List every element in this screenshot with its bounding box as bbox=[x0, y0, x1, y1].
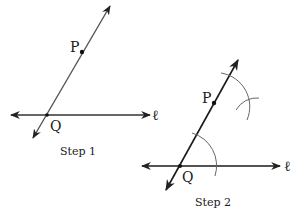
step2-arc-p-small bbox=[236, 98, 259, 110]
step2-point-p bbox=[212, 101, 216, 105]
step1-point-p bbox=[80, 50, 84, 54]
step-2-figure: P Q ℓ Step 2 bbox=[142, 60, 291, 209]
step2-arc-p-large bbox=[221, 73, 250, 120]
step1-label-p: P bbox=[70, 39, 79, 55]
step-1-figure: P Q ℓ Step 1 bbox=[11, 6, 159, 158]
step2-arc-q bbox=[192, 133, 217, 176]
construction-diagram: P Q ℓ Step 1 P Q ℓ Step 2 bbox=[0, 0, 299, 217]
step2-point-q bbox=[178, 164, 182, 168]
step1-transversal bbox=[33, 6, 110, 138]
step2-label-l: ℓ bbox=[284, 158, 291, 174]
step2-transversal bbox=[166, 60, 238, 190]
step1-caption: Step 1 bbox=[60, 145, 96, 158]
step1-label-l: ℓ bbox=[152, 107, 159, 123]
step2-label-q: Q bbox=[182, 169, 193, 185]
step2-caption: Step 2 bbox=[195, 196, 231, 209]
step2-label-p: P bbox=[202, 90, 211, 106]
step1-label-q: Q bbox=[50, 118, 61, 134]
step1-point-q bbox=[45, 113, 49, 117]
